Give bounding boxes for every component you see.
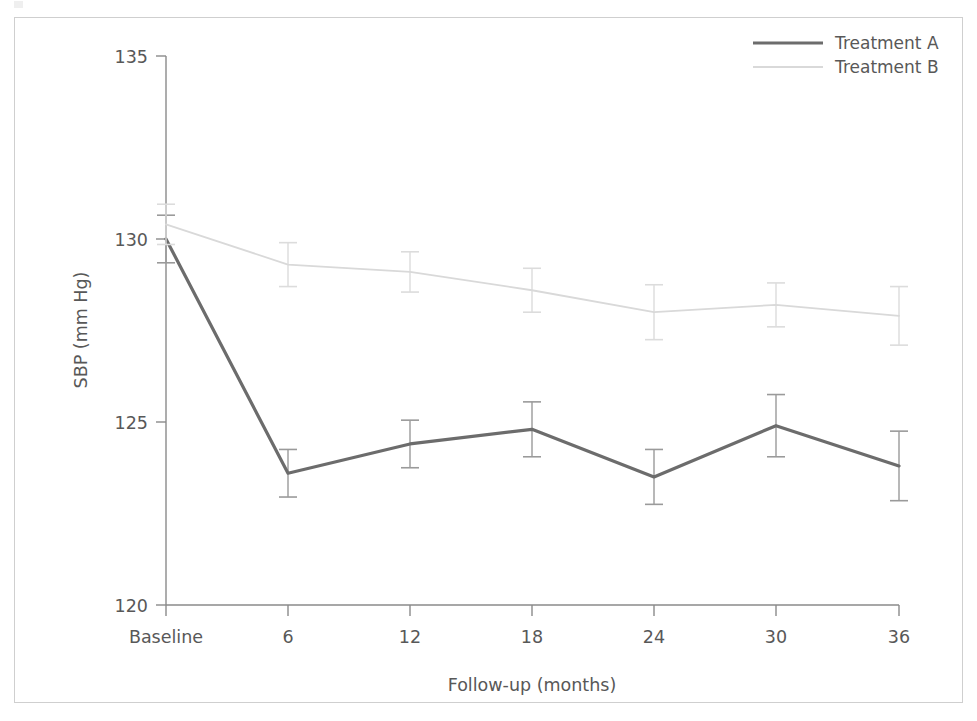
x-axis-title: Follow-up (months) <box>448 675 617 695</box>
y-axis-ticks <box>156 56 166 605</box>
x-tick-label-6: 6 <box>282 627 293 647</box>
figure-frame: 135 130 125 120 SBP (mm Hg) Baseline 6 1… <box>14 17 963 703</box>
y-tick-label-135: 135 <box>115 47 148 67</box>
line-chart: 135 130 125 120 SBP (mm Hg) Baseline 6 1… <box>15 18 962 702</box>
series-layer <box>157 204 908 504</box>
series-treatment-b <box>157 204 908 345</box>
x-tick-label-24: 24 <box>643 627 665 647</box>
y-tick-label-130: 130 <box>115 230 148 250</box>
legend-label-treatment-a: Treatment A <box>834 33 939 53</box>
page-corner-artifact <box>14 1 23 8</box>
x-axis-ticks <box>166 605 899 616</box>
y-tick-label-125: 125 <box>115 413 148 433</box>
legend-label-treatment-b: Treatment B <box>834 57 939 77</box>
x-tick-label-36: 36 <box>888 627 910 647</box>
x-tick-label-12: 12 <box>399 627 421 647</box>
x-tick-label-baseline: Baseline <box>129 627 203 647</box>
x-tick-label-18: 18 <box>521 627 543 647</box>
y-tick-label-120: 120 <box>115 596 148 616</box>
x-tick-label-30: 30 <box>765 627 787 647</box>
y-axis-title: SBP (mm Hg) <box>71 272 91 389</box>
chart-legend: Treatment A Treatment B <box>753 33 939 77</box>
